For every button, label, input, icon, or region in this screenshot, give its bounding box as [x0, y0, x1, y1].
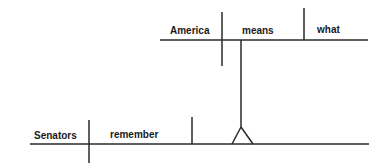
noun-clause-object: what [317, 25, 340, 35]
main-clause-subject: Senators [34, 131, 77, 141]
pedestal-left-leg [232, 127, 241, 144]
sentence-diagram: America means what Senators remember [0, 0, 389, 165]
pedestal-right-leg [241, 127, 253, 144]
noun-clause-subject: America [170, 26, 209, 36]
main-clause-verb: remember [110, 130, 158, 140]
noun-clause-verb: means [242, 26, 274, 36]
